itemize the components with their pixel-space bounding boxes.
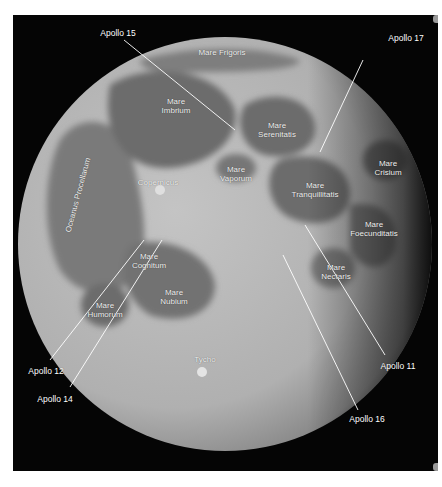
label-mare-cognitum: MareCognitum: [132, 252, 166, 270]
label-mare-nubium: MareNubium: [160, 288, 188, 306]
label-mare-tranquillitatis: MareTranquillitatis: [292, 181, 339, 199]
label-apollo-12: Apollo 12: [28, 367, 63, 376]
label-apollo-17: Apollo 17: [388, 34, 423, 43]
tycho-crater: [197, 367, 207, 377]
label-apollo-16: Apollo 16: [349, 415, 384, 424]
label-apollo-15: Apollo 15: [100, 29, 135, 38]
label-mare-frigoris: Mare Frigoris: [198, 48, 245, 57]
label-mare-serenitatis: MareSerenitatis: [258, 121, 296, 139]
label-mare-vaporum: MareVaporum: [220, 165, 252, 183]
terminator-shade: [18, 37, 432, 451]
label-copernicus: Copernicus: [138, 178, 178, 187]
label-mare-foecunditatis: MareFoecunditatis: [350, 220, 398, 238]
label-tycho: Tycho: [194, 355, 215, 364]
copernicus-crater: [155, 185, 165, 195]
label-mare-nectaris: MareNectaris: [321, 263, 350, 281]
label-mare-humorum: MareHumorum: [87, 301, 122, 319]
label-apollo-11: Apollo 11: [381, 362, 416, 371]
label-apollo-14: Apollo 14: [37, 395, 72, 404]
label-mare-imbrium: MareImbrium: [162, 97, 191, 115]
label-mare-crisium: MareCrisium: [374, 159, 401, 177]
